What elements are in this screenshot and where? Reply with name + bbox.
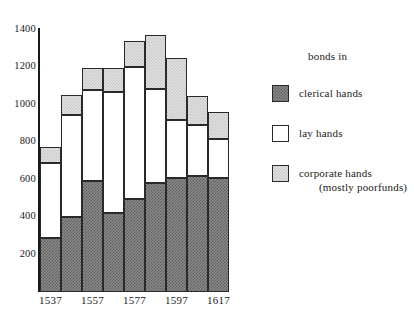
bar-segment-clerical-1577 [124, 199, 145, 292]
bar-segment-lay-1547 [61, 115, 82, 217]
bar-segment-lay-1557 [82, 90, 103, 181]
bar-segment-corporate-1537 [40, 147, 61, 163]
bar-segment-lay-1597 [166, 120, 187, 178]
bar-segment-lay-1587 [145, 89, 166, 184]
legend-sublabel: (mostly poorfunds) [299, 180, 414, 194]
bar-segment-clerical-1597 [166, 178, 187, 292]
legend-label: clerical hands [299, 85, 414, 100]
bar-1557 [82, 68, 103, 292]
legend-item-lay-hands: lay hands [272, 125, 414, 142]
bar-1587 [145, 35, 166, 292]
bar-1537 [40, 147, 61, 292]
bar-segment-lay-1617 [208, 139, 229, 177]
bar-segment-clerical-1587 [145, 183, 166, 292]
bar-segment-clerical-1557 [82, 181, 103, 292]
legend-label: lay hands [299, 125, 414, 140]
x-tick-label-1537: 1537 [30, 294, 71, 306]
bar-segment-clerical-1547 [61, 217, 82, 292]
legend-item-corporate-hands: corporate hands (mostly poorfunds) [272, 165, 414, 194]
bar-segment-corporate-1597 [166, 58, 187, 120]
bar-1607 [187, 96, 208, 293]
bar-segment-corporate-1557 [82, 68, 103, 90]
bar-1577 [124, 41, 145, 292]
bar-segment-lay-1567 [103, 92, 124, 214]
bar-segment-clerical-1617 [208, 178, 229, 292]
legend-label: corporate hands [299, 165, 414, 180]
bars-layer [0, 0, 270, 319]
legend: bonds in clerical hands lay hands corpor… [272, 50, 414, 217]
x-tick-label-1597: 1597 [156, 294, 197, 306]
x-tick-label-1617: 1617 [198, 294, 239, 306]
bar-segment-lay-1607 [187, 125, 208, 176]
bar-segment-clerical-1567 [103, 213, 124, 292]
legend-swatch-lay-icon [272, 125, 289, 142]
x-tick-label-1557: 1557 [72, 294, 113, 306]
bar-segment-corporate-1607 [187, 96, 208, 126]
bar-1597 [166, 58, 187, 292]
bar-1567 [103, 68, 124, 292]
legend-title: bonds in [308, 50, 414, 63]
bar-segment-corporate-1567 [103, 68, 124, 91]
bar-segment-lay-1537 [40, 163, 61, 238]
bar-1547 [61, 95, 82, 292]
x-tick-label-1577: 1577 [114, 294, 155, 306]
legend-item-clerical-hands: clerical hands [272, 85, 414, 102]
bar-segment-clerical-1537 [40, 238, 61, 292]
bar-segment-lay-1577 [124, 67, 145, 199]
bar-segment-corporate-1587 [145, 35, 166, 89]
bar-segment-corporate-1577 [124, 41, 145, 67]
plot-area: 1400 1200 1000 800 600 400 200 153715571… [0, 0, 270, 319]
bar-segment-clerical-1607 [187, 176, 208, 292]
legend-swatch-corporate-icon [272, 165, 289, 182]
bar-segment-corporate-1617 [208, 112, 229, 139]
stacked-bar-chart: 1400 1200 1000 800 600 400 200 153715571… [0, 0, 414, 319]
bar-segment-corporate-1547 [61, 95, 82, 116]
legend-swatch-clerical-icon [272, 85, 289, 102]
bar-1617 [208, 112, 229, 292]
